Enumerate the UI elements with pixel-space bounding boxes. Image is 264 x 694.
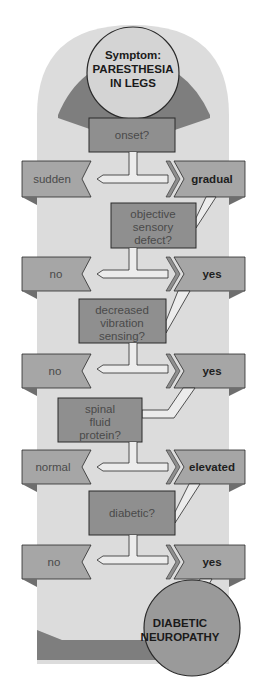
conclusion-line-2: NEUROPATHY <box>141 631 220 643</box>
question-text: decreased <box>95 304 149 316</box>
question-text: sensory <box>133 221 174 233</box>
step-decreased-vibration-sensing: decreased vibration sensing? <box>79 299 166 343</box>
start-line-3: IN LEGS <box>110 77 156 89</box>
answer-label: gradual <box>191 173 233 185</box>
answer-label: yes <box>202 556 221 568</box>
answer-label: no <box>48 556 61 568</box>
question-text: diabetic? <box>109 507 155 519</box>
step-spinal-fluid-protein: spinal fluid protein? <box>58 398 142 442</box>
answer-label: elevated <box>189 461 235 473</box>
answer-label: sudden <box>33 173 71 185</box>
answer-label: yes <box>202 268 221 280</box>
bottom-margin <box>0 664 264 694</box>
step-objective-sensory-defect: objective sensory defect? <box>111 203 196 248</box>
question-text: protein? <box>79 429 121 441</box>
step-diabetic: diabetic? <box>89 491 175 535</box>
answer-label: normal <box>35 461 70 473</box>
question-text: fluid <box>89 416 110 428</box>
question-text: onset? <box>115 129 150 141</box>
question-text: defect? <box>134 234 172 246</box>
step-onset: onset? <box>89 118 175 152</box>
start-line-1: Symptom: <box>105 49 161 61</box>
answer-label: yes <box>202 365 221 377</box>
question-text: objective <box>130 208 175 220</box>
question-text: sensing? <box>99 330 145 342</box>
start-node: Symptom: PARESTHESIA IN LEGS <box>87 27 179 119</box>
conclusion-line-1: DIABETIC <box>153 617 207 629</box>
question-text: spinal <box>85 403 115 415</box>
start-line-2: PARESTHESIA <box>93 63 174 75</box>
answer-label: no <box>49 365 62 377</box>
answer-label: no <box>50 268 63 280</box>
question-text: vibration <box>100 317 143 329</box>
flowchart-diagram: Symptom: PARESTHESIA IN LEGS onset? sudd… <box>0 0 264 694</box>
